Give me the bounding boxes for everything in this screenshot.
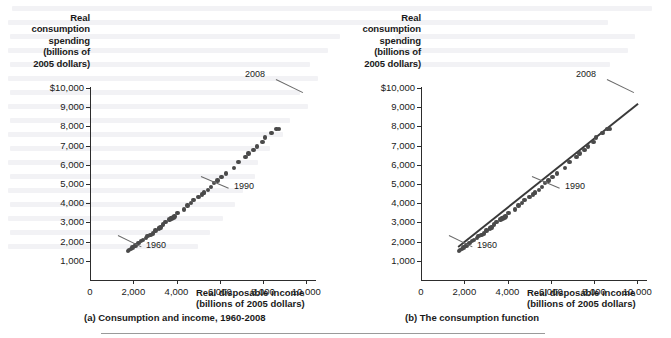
panel-a-ytick-2000 bbox=[86, 242, 90, 243]
data-point-1999 bbox=[236, 160, 240, 164]
panel-b-xtick-4000 bbox=[508, 280, 509, 284]
figure-consumption-function: Real consumption spending (billions of 2… bbox=[0, 0, 671, 338]
panel-a-xtick-2000 bbox=[133, 280, 134, 284]
panel-b-y-axis-title: Real consumption spending (billions of 2… bbox=[343, 12, 421, 69]
panel-a-xtick-10000 bbox=[306, 280, 307, 284]
panel-a-ylabel-8000: 8,000 bbox=[28, 121, 84, 131]
panel-a-ylabel-9000: 9,000 bbox=[28, 102, 84, 112]
panel-b: Real consumption spending (billions of 2… bbox=[331, 0, 666, 338]
panel-b-annotation-2008: 2008 bbox=[576, 69, 596, 79]
panel-a-xtick-8000 bbox=[263, 280, 264, 284]
panel-a: Real consumption spending (billions of 2… bbox=[0, 0, 335, 338]
panel-b-leader-2008 bbox=[607, 79, 634, 93]
data-point-1996 bbox=[219, 175, 223, 179]
panel-b-ytick-10000 bbox=[417, 88, 421, 89]
data-point-2005 bbox=[263, 135, 267, 139]
panel-a-y-axis bbox=[90, 87, 91, 280]
panel-b-ylabel-1000: 1,000 bbox=[359, 256, 415, 266]
panel-b-xtick-10000 bbox=[637, 280, 638, 284]
panel-a-ytick-1000 bbox=[86, 261, 90, 262]
panel-a-ytick-7000 bbox=[86, 146, 90, 147]
panel-a-ytick-5000 bbox=[86, 184, 90, 185]
panel-b-plot-area: $10,000 9,000 8,000 7,000 6,000 5,000 4,… bbox=[421, 88, 646, 280]
panel-b-ytick-6000 bbox=[417, 165, 421, 166]
panel-b-ytick-3000 bbox=[417, 222, 421, 223]
panel-a-plot-area: $10,000 9,000 8,000 7,000 6,000 5,000 4,… bbox=[90, 88, 315, 280]
data-point-2008 bbox=[277, 127, 281, 131]
data-point-2004 bbox=[591, 140, 595, 144]
data-point-1993 bbox=[540, 185, 544, 189]
data-point-1982 bbox=[172, 214, 176, 218]
data-point-2008 bbox=[608, 127, 612, 131]
panel-a-xlabel-2000: 2,000 bbox=[113, 287, 153, 297]
panel-a-ytick-3000 bbox=[86, 222, 90, 223]
data-point-1998 bbox=[232, 166, 236, 170]
consumption-function-fit-line bbox=[457, 103, 638, 247]
data-point-1983 bbox=[506, 211, 510, 215]
panel-a-leader-2008 bbox=[276, 79, 303, 93]
data-point-2006 bbox=[600, 131, 604, 135]
panel-a-ylabel-1000: 1,000 bbox=[28, 256, 84, 266]
data-point-1997 bbox=[224, 171, 228, 175]
panel-a-ylabel-10000: $10,000 bbox=[28, 83, 84, 93]
panel-b-xtick-8000 bbox=[594, 280, 595, 284]
panel-b-ytick-9000 bbox=[417, 107, 421, 108]
panel-a-xtick-6000 bbox=[220, 280, 221, 284]
panel-a-xtick-4000 bbox=[177, 280, 178, 284]
panel-a-xlabel-4000: 4,000 bbox=[157, 287, 197, 297]
panel-a-ylabel-5000: 5,000 bbox=[28, 179, 84, 189]
panel-b-ylabel-6000: 6,000 bbox=[359, 160, 415, 170]
panel-a-ytick-10000 bbox=[86, 88, 90, 89]
panel-a-annotation-1960: 1960 bbox=[146, 240, 166, 250]
data-point-1999 bbox=[567, 160, 571, 164]
panel-b-ylabel-4000: 4,000 bbox=[359, 198, 415, 208]
panel-a-ylabel-2000: 2,000 bbox=[28, 237, 84, 247]
data-point-2006 bbox=[269, 131, 273, 135]
panel-b-x-axis bbox=[421, 280, 647, 281]
panel-a-ylabel-7000: 7,000 bbox=[28, 141, 84, 151]
panel-b-ylabel-8000: 8,000 bbox=[359, 121, 415, 131]
data-point-2004 bbox=[260, 140, 264, 144]
panel-b-ylabel-7000: 7,000 bbox=[359, 141, 415, 151]
panel-b-xtick-2000 bbox=[464, 280, 465, 284]
panel-a-ytick-8000 bbox=[86, 126, 90, 127]
data-point-1987 bbox=[191, 198, 195, 202]
panel-a-ytick-6000 bbox=[86, 165, 90, 166]
figure-bottom-rule bbox=[101, 333, 545, 334]
panel-a-annotation-2008: 2008 bbox=[245, 69, 265, 79]
data-point-1996 bbox=[550, 175, 554, 179]
panel-b-xtick-6000 bbox=[551, 280, 552, 284]
panel-b-ylabel-2000: 2,000 bbox=[359, 237, 415, 247]
panel-b-ytick-7000 bbox=[417, 146, 421, 147]
data-point-1983 bbox=[175, 211, 179, 215]
panel-a-ytick-9000 bbox=[86, 107, 90, 108]
panel-b-xlabel-0: 0 bbox=[401, 287, 441, 297]
panel-a-x-axis-title: Real disposable income (billions of 2005… bbox=[196, 287, 332, 310]
panel-b-y-axis bbox=[421, 87, 422, 280]
data-point-2005 bbox=[594, 135, 598, 139]
panel-b-annotation-1990: 1990 bbox=[565, 181, 585, 191]
panel-b-ylabel-10000: $10,000 bbox=[359, 83, 415, 93]
panel-b-ytick-1000 bbox=[417, 261, 421, 262]
data-point-1998 bbox=[563, 166, 567, 170]
data-point-1987 bbox=[522, 198, 526, 202]
data-point-2003 bbox=[586, 144, 590, 148]
panel-b-xlabel-4000: 4,000 bbox=[488, 287, 528, 297]
data-point-2001 bbox=[577, 151, 581, 155]
data-point-2001 bbox=[246, 151, 250, 155]
panel-a-ytick-4000 bbox=[86, 203, 90, 204]
panel-a-xlabel-0: 0 bbox=[70, 287, 110, 297]
panel-a-caption: (a) Consumption and income, 1960-2008 bbox=[84, 312, 266, 323]
panel-a-y-axis-title: Real consumption spending (billions of 2… bbox=[12, 12, 90, 69]
data-point-1993 bbox=[209, 185, 213, 189]
panel-b-xlabel-2000: 2,000 bbox=[444, 287, 484, 297]
panel-b-ytick-8000 bbox=[417, 126, 421, 127]
panel-b-x-axis-title: Real disposable income (billions of 2005… bbox=[527, 287, 663, 310]
data-point-2003 bbox=[255, 144, 259, 148]
panel-b-ylabel-3000: 3,000 bbox=[359, 217, 415, 227]
panel-b-ytick-5000 bbox=[417, 184, 421, 185]
panel-b-ytick-4000 bbox=[417, 203, 421, 204]
panel-a-ylabel-6000: 6,000 bbox=[28, 160, 84, 170]
panel-a-ylabel-4000: 4,000 bbox=[28, 198, 84, 208]
panel-b-annotation-1960: 1960 bbox=[477, 240, 497, 250]
